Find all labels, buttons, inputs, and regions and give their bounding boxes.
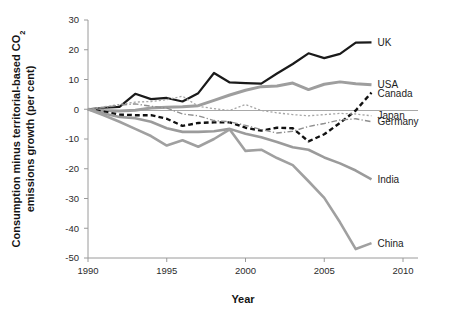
y-tick-label: 10 (68, 74, 79, 85)
series-label-germany: Germany (378, 116, 419, 127)
chart-figure: Consumption minus territorial-based CO2e… (0, 0, 449, 316)
y-tick-label: 30 (68, 14, 79, 25)
y-tick-label: -50 (65, 252, 79, 263)
y-tick-label: -20 (65, 163, 79, 174)
x-axis-title: Year (231, 293, 255, 305)
y-tick-label: 0 (74, 104, 79, 115)
y-axis-title-line2: emissions growth (per cent) (24, 65, 36, 212)
y-tick-label: 20 (68, 44, 79, 55)
series-label-canada: Canada (378, 88, 413, 99)
series-label-india: India (378, 174, 400, 185)
line-chart: Consumption minus territorial-based CO2e… (0, 0, 449, 316)
y-tick-label: -40 (65, 223, 79, 234)
x-tick-label: 1990 (77, 265, 98, 276)
y-tick-label: -10 (65, 133, 79, 144)
series-label-china: China (378, 238, 405, 249)
y-tick-label: -30 (65, 193, 79, 204)
x-tick-label: 2005 (314, 265, 335, 276)
x-tick-label: 2000 (235, 265, 256, 276)
x-tick-label: 1995 (156, 265, 177, 276)
x-tick-label: 2010 (392, 265, 413, 276)
series-label-uk: UK (378, 37, 392, 48)
